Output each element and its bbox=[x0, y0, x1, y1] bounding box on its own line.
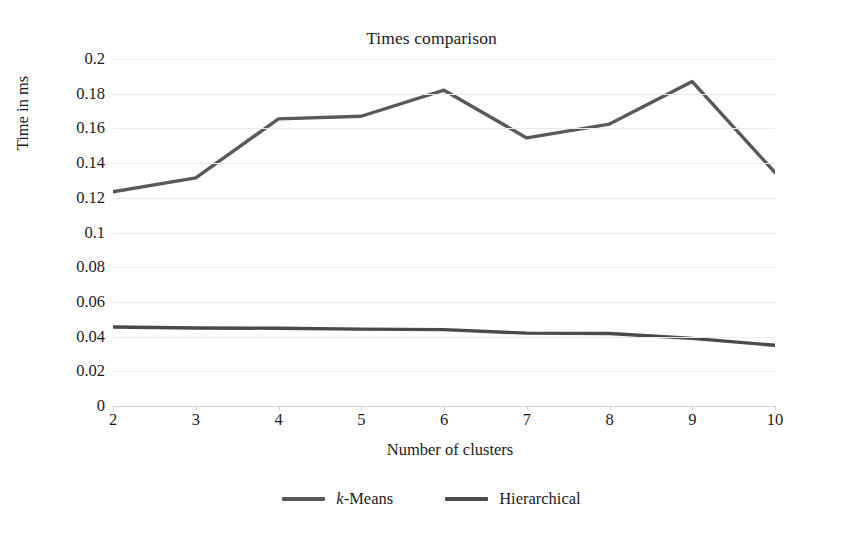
y-axis-tick-labels: 0.20.180.160.140.120.10.080.060.040.020 bbox=[45, 0, 105, 535]
x-axis-title: Number of clusters bbox=[110, 440, 790, 460]
y-axis-tick-label: 0.18 bbox=[49, 86, 105, 103]
y-axis-tick-label: 0.12 bbox=[49, 190, 105, 207]
y-axis-tick-label: 0.14 bbox=[49, 155, 105, 172]
plot-area bbox=[113, 59, 775, 406]
y-axis-tick-label: 0.08 bbox=[49, 259, 105, 276]
chart-title: Times comparison bbox=[0, 28, 863, 49]
y-axis-tick-label: 0.02 bbox=[49, 363, 105, 380]
chart-legend: k-MeansHierarchical bbox=[0, 489, 863, 509]
gridline bbox=[113, 233, 775, 234]
x-axis-tick-label: 8 bbox=[580, 410, 640, 430]
gridline bbox=[113, 128, 775, 129]
y-axis-tick-label: 0.16 bbox=[49, 120, 105, 137]
gridline bbox=[113, 371, 775, 372]
y-axis-tick-label: 0.2 bbox=[49, 51, 105, 68]
y-axis-tick-label: 0.04 bbox=[49, 329, 105, 346]
gridline bbox=[113, 59, 775, 60]
x-axis-tick-label: 5 bbox=[331, 410, 391, 430]
y-axis-tick-label: 0.1 bbox=[49, 225, 105, 242]
legend-swatch-icon bbox=[445, 497, 488, 501]
gridline bbox=[113, 94, 775, 95]
x-axis-tick-label: 2 bbox=[83, 410, 143, 430]
y-axis-title: Time in ms bbox=[13, 13, 37, 213]
gridline bbox=[113, 163, 775, 164]
y-axis-tick-label: 0.06 bbox=[49, 294, 105, 311]
x-axis-tick-label: 3 bbox=[166, 410, 226, 430]
series-line-1 bbox=[113, 82, 775, 192]
x-axis-tick-labels: 2345678910 bbox=[113, 410, 775, 436]
gridline bbox=[113, 267, 775, 268]
x-axis-tick-label: 10 bbox=[745, 410, 805, 430]
gridline bbox=[113, 302, 775, 303]
legend-swatch-icon bbox=[282, 497, 325, 501]
x-axis-tick-label: 9 bbox=[662, 410, 722, 430]
x-axis-tick-label: 4 bbox=[249, 410, 309, 430]
x-axis-tick-label: 6 bbox=[414, 410, 474, 430]
chart-figure: Times comparison Time in ms 0.20.180.160… bbox=[0, 0, 863, 535]
legend-entry-1[interactable]: k-Means bbox=[282, 489, 393, 509]
gridline bbox=[113, 337, 775, 338]
x-axis-tick-label: 7 bbox=[497, 410, 557, 430]
legend-label: k-Means bbox=[336, 489, 393, 509]
legend-label: Hierarchical bbox=[499, 489, 581, 509]
gridline bbox=[113, 198, 775, 199]
legend-entry-2[interactable]: Hierarchical bbox=[445, 489, 581, 509]
